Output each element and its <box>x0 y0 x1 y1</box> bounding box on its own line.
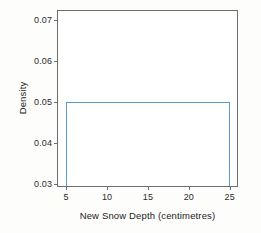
y-tick-mark <box>54 61 58 62</box>
y-tick-label: 0.07 <box>34 15 52 25</box>
y-tick-mark <box>54 184 58 185</box>
y-axis-title: Density <box>17 82 28 115</box>
x-tick-mark <box>66 186 67 190</box>
density-curve <box>66 102 229 186</box>
y-tick-mark <box>54 20 58 21</box>
x-axis-title: New Snow Depth (centimetres) <box>57 210 238 221</box>
y-tick-mark <box>54 102 58 103</box>
x-tick-label: 10 <box>102 192 112 202</box>
x-tick-mark <box>230 186 231 190</box>
y-tick-label: 0.05 <box>34 97 52 107</box>
x-tick-label: 25 <box>225 192 235 202</box>
chart-figure: 0.030.040.050.060.07 510152025 New Snow … <box>0 0 261 233</box>
x-tick-label: 15 <box>143 192 153 202</box>
x-tick-mark <box>107 186 108 190</box>
y-tick-label: 0.03 <box>34 179 52 189</box>
x-tick-label: 5 <box>64 192 69 202</box>
x-tick-label: 20 <box>184 192 194 202</box>
y-tick-mark <box>54 143 58 144</box>
plot-area: 0.030.040.050.060.07 510152025 <box>57 10 238 187</box>
x-tick-mark <box>189 186 190 190</box>
y-tick-label: 0.06 <box>34 56 52 66</box>
x-tick-mark <box>148 186 149 190</box>
y-tick-label: 0.04 <box>34 138 52 148</box>
